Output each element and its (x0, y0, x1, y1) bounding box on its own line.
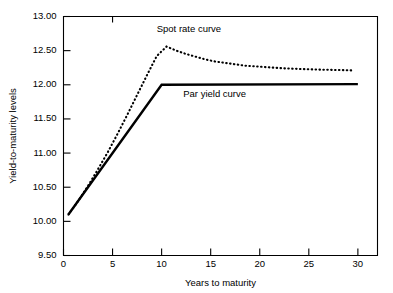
y-tick-label: 11.00 (33, 147, 56, 158)
spot-rate-curve-label: Spot rate curve (157, 23, 221, 34)
spot-rate-curve-line (68, 47, 353, 215)
x-axis-tick-labels: 051015202530 (61, 258, 363, 269)
y-tick-label: 13.00 (33, 10, 57, 21)
y-tick-label: 11.50 (33, 112, 56, 123)
x-tick-label: 15 (205, 258, 216, 269)
y-axis-ticks (64, 17, 71, 256)
axis-frame (64, 17, 378, 256)
y-axis-title: Yield-to-maturity levels (7, 88, 18, 184)
y-tick-label: 12.50 (33, 44, 57, 55)
par-yield-curve-label: Par yield curve (183, 88, 246, 99)
x-tick-label: 30 (353, 258, 364, 269)
y-tick-label: 10.00 (33, 215, 57, 226)
par-yield-curve-line (68, 84, 357, 214)
y-tick-label: 9.50 (38, 249, 57, 260)
plot-frame (64, 17, 378, 256)
chart-canvas: 9.5010.0010.5011.0011.5012.0012.5013.00 … (0, 0, 393, 293)
yield-curve-chart: 9.5010.0010.5011.0011.5012.0012.5013.00 … (0, 0, 393, 293)
y-tick-label: 12.00 (33, 78, 57, 89)
y-tick-label: 10.50 (33, 181, 57, 192)
x-axis-title: Years to maturity (185, 277, 256, 288)
x-tick-label: 5 (110, 258, 115, 269)
x-axis-ticks (64, 17, 358, 256)
x-tick-label: 25 (304, 258, 315, 269)
x-tick-label: 10 (156, 258, 167, 269)
x-tick-label: 20 (254, 258, 265, 269)
x-tick-label: 0 (61, 258, 66, 269)
y-axis-tick-labels: 9.5010.0010.5011.0011.5012.0012.5013.00 (33, 10, 57, 260)
